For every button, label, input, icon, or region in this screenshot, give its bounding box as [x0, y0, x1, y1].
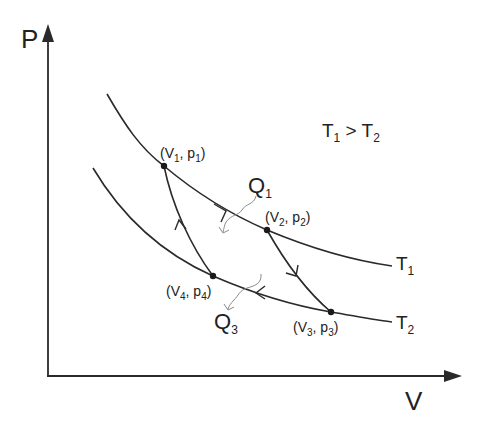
- y-axis-arrow-icon: [42, 24, 54, 42]
- heat-q3-arrow-icon: [228, 274, 261, 309]
- axes: P V: [21, 24, 462, 416]
- point-2-dot: [264, 227, 270, 233]
- x-axis-label: V: [405, 386, 423, 416]
- point-1-label: (V1, p1): [160, 145, 205, 164]
- point-3-dot: [328, 309, 334, 315]
- point-1-dot: [161, 163, 167, 169]
- heat-q3-label: Q3: [214, 309, 238, 337]
- heat-q1-label: Q1: [248, 173, 272, 201]
- y-axis-label: P: [21, 24, 38, 54]
- temperature-condition: T1 > T2: [322, 120, 380, 145]
- arrow-3-4-icon: [256, 286, 265, 299]
- point-3-label: (V3, p3): [293, 319, 338, 338]
- x-axis-arrow-icon: [444, 370, 462, 382]
- isotherm-t2-label: T2: [396, 312, 415, 337]
- heat-q1-arrow-icon: [223, 196, 256, 232]
- carnot-pv-diagram: P V T1 > T2 (V1, p1) (V2, p2) (V3, p3) (…: [0, 0, 484, 431]
- adiabat-4-1: [164, 166, 213, 276]
- isotherm-t2: [93, 168, 392, 322]
- point-4-dot: [210, 273, 216, 279]
- isotherm-t1-label: T1: [396, 253, 415, 278]
- point-2-label: (V2, p2): [265, 209, 310, 228]
- arrow-1-2-icon: [214, 204, 226, 222]
- point-4-label: (V4, p4): [166, 283, 211, 302]
